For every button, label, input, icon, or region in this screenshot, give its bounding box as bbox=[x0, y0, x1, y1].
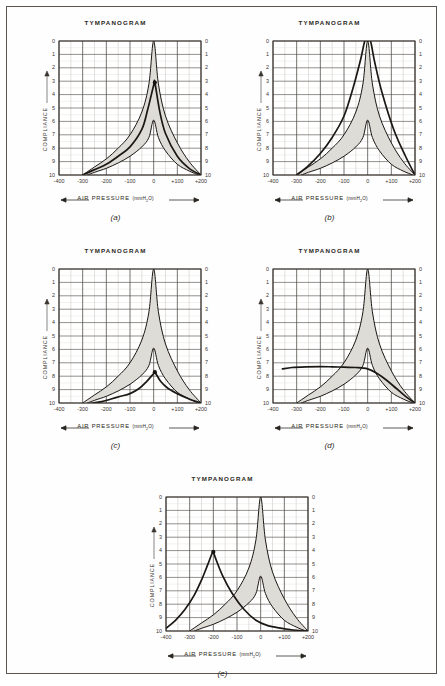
y-axis-label-compliance: COMPLIANCE bbox=[256, 107, 262, 151]
y-tick-right-5: 5 bbox=[419, 333, 433, 339]
x-tick--100: -100 bbox=[117, 406, 143, 412]
y-tick-right-6: 6 bbox=[205, 118, 219, 124]
x-tick--300: -300 bbox=[284, 178, 310, 184]
y-tick-right-10: 10 bbox=[419, 400, 433, 406]
x-tick--200: -200 bbox=[307, 406, 333, 412]
peak-compliance-marker bbox=[153, 80, 157, 84]
y-tick-right-0: 0 bbox=[205, 38, 219, 44]
y-tick-right-6: 6 bbox=[205, 346, 219, 352]
y-tick-left-9: 9 bbox=[41, 386, 55, 392]
x-axis-label-air-pressure: AIR PRESSURE (mmH2O) bbox=[15, 195, 216, 203]
y-axis-label-compliance: COMPLIANCE bbox=[256, 335, 262, 379]
x-axis-label-text: AIR PRESSURE bbox=[291, 423, 344, 429]
x-tick-0: 0 bbox=[355, 178, 381, 184]
x-tick--300: -300 bbox=[70, 178, 96, 184]
tympanogram-panel-c: TYMPANOGRAM001122334455667788991010-400-… bbox=[15, 247, 216, 463]
x-tick--200: -200 bbox=[93, 406, 119, 412]
compliance-axis-arrow-icon bbox=[259, 71, 263, 103]
x-tick-+200: +200 bbox=[402, 406, 428, 412]
y-tick-right-8: 8 bbox=[419, 373, 433, 379]
y-tick-left-10: 10 bbox=[41, 400, 55, 406]
y-tick-right-4: 4 bbox=[205, 91, 219, 97]
y-tick-right-9: 9 bbox=[205, 386, 219, 392]
tympanogram-panel-b: TYMPANOGRAM001122334455667788991010-400-… bbox=[229, 19, 430, 235]
y-axis-label-compliance: COMPLIANCE bbox=[42, 107, 48, 151]
x-tick--300: -300 bbox=[70, 406, 96, 412]
y-tick-left-10: 10 bbox=[41, 172, 55, 178]
x-axis-label-unit: (mmH2O) bbox=[239, 652, 260, 657]
x-tick-0: 0 bbox=[141, 406, 167, 412]
y-tick-left-0: 0 bbox=[148, 494, 162, 500]
x-tick--100: -100 bbox=[224, 634, 250, 640]
unit-prefix: (mmH bbox=[239, 652, 253, 657]
y-tick-right-8: 8 bbox=[312, 601, 326, 607]
y-tick-right-3: 3 bbox=[312, 534, 326, 540]
peak-compliance-marker bbox=[211, 550, 215, 554]
peak-compliance-marker bbox=[153, 370, 157, 374]
x-axis-label-text: AIR PRESSURE bbox=[291, 195, 344, 201]
y-tick-left-3: 3 bbox=[41, 78, 55, 84]
x-tick--300: -300 bbox=[284, 406, 310, 412]
y-tick-right-7: 7 bbox=[312, 587, 326, 593]
y-tick-right-6: 6 bbox=[312, 574, 326, 580]
panel-caption-a: (a) bbox=[15, 213, 216, 222]
x-axis-label-air-pressure: AIR PRESSURE (mmH2O) bbox=[229, 423, 430, 431]
compliance-axis-arrow-icon bbox=[45, 71, 49, 103]
y-tick-right-0: 0 bbox=[205, 266, 219, 272]
x-tick-+100: +100 bbox=[378, 406, 404, 412]
y-tick-left-2: 2 bbox=[41, 292, 55, 298]
y-tick-right-9: 9 bbox=[419, 158, 433, 164]
y-tick-left-1: 1 bbox=[41, 51, 55, 57]
panel-caption-e: (e) bbox=[122, 669, 323, 678]
y-tick-left-2: 2 bbox=[148, 520, 162, 526]
y-tick-right-8: 8 bbox=[205, 373, 219, 379]
x-tick-0: 0 bbox=[141, 178, 167, 184]
tympanogram-panel-e: TYMPANOGRAM001122334455667788991010-400-… bbox=[122, 475, 323, 686]
y-tick-left-0: 0 bbox=[255, 38, 269, 44]
y-tick-left-9: 9 bbox=[41, 158, 55, 164]
y-tick-right-2: 2 bbox=[205, 64, 219, 70]
y-tick-right-4: 4 bbox=[419, 319, 433, 325]
y-tick-right-1: 1 bbox=[419, 51, 433, 57]
y-axis-label-compliance: COMPLIANCE bbox=[149, 563, 155, 607]
y-tick-left-10: 10 bbox=[255, 172, 269, 178]
y-tick-right-9: 9 bbox=[312, 614, 326, 620]
y-tick-right-1: 1 bbox=[312, 507, 326, 513]
x-tick-0: 0 bbox=[355, 406, 381, 412]
tympanogram-panel-d: TYMPANOGRAM001122334455667788991010-400-… bbox=[229, 247, 430, 463]
x-axis-label-text: AIR PRESSURE bbox=[77, 423, 130, 429]
x-axis-label-air-pressure: AIR PRESSURE (mmH2O) bbox=[15, 423, 216, 431]
tympanogram-panel-a: TYMPANOGRAM001122334455667788991010-400-… bbox=[15, 19, 216, 235]
x-axis-label-air-pressure: AIR PRESSURE (mmH2O) bbox=[122, 651, 323, 659]
x-tick--400: -400 bbox=[153, 634, 179, 640]
x-tick--200: -200 bbox=[93, 178, 119, 184]
x-axis-label-text: AIR PRESSURE bbox=[184, 651, 237, 657]
y-tick-right-1: 1 bbox=[205, 279, 219, 285]
y-tick-left-3: 3 bbox=[255, 78, 269, 84]
y-tick-right-6: 6 bbox=[419, 118, 433, 124]
panel-caption-b: (b) bbox=[229, 213, 430, 222]
y-tick-right-10: 10 bbox=[205, 172, 219, 178]
x-tick-+200: +200 bbox=[402, 178, 428, 184]
x-tick-+100: +100 bbox=[164, 406, 190, 412]
y-tick-left-4: 4 bbox=[255, 319, 269, 325]
x-tick-+100: +100 bbox=[164, 178, 190, 184]
y-tick-right-9: 9 bbox=[205, 158, 219, 164]
y-tick-left-3: 3 bbox=[148, 534, 162, 540]
y-tick-left-3: 3 bbox=[255, 306, 269, 312]
x-tick-+100: +100 bbox=[378, 178, 404, 184]
y-tick-left-4: 4 bbox=[255, 91, 269, 97]
y-tick-right-5: 5 bbox=[419, 105, 433, 111]
y-tick-left-4: 4 bbox=[148, 547, 162, 553]
y-tick-right-2: 2 bbox=[419, 64, 433, 70]
y-tick-left-1: 1 bbox=[255, 279, 269, 285]
y-tick-right-10: 10 bbox=[312, 628, 326, 634]
panel-caption-c: (c) bbox=[15, 441, 216, 450]
y-tick-right-7: 7 bbox=[205, 359, 219, 365]
x-tick--300: -300 bbox=[177, 634, 203, 640]
y-tick-right-3: 3 bbox=[419, 306, 433, 312]
y-tick-right-0: 0 bbox=[419, 38, 433, 44]
unit-suffix: O) bbox=[362, 196, 368, 201]
x-tick--400: -400 bbox=[260, 178, 286, 184]
y-tick-left-1: 1 bbox=[41, 279, 55, 285]
